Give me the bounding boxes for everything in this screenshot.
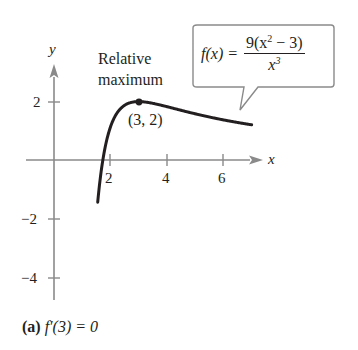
formula-denominator: x3 bbox=[268, 54, 280, 74]
numerator-base: 9(x bbox=[246, 34, 267, 51]
x-tick-label-6: 6 bbox=[218, 171, 226, 186]
y-axis-arrow-icon bbox=[50, 64, 59, 78]
point-coordinate-label: (3, 2) bbox=[128, 112, 163, 128]
x-tick-label-4: 4 bbox=[162, 171, 170, 186]
caption-text: f′(3) = 0 bbox=[45, 318, 98, 335]
figure-caption: (a) f′(3) = 0 bbox=[22, 318, 98, 336]
relative-maximum-label-line2: maximum bbox=[98, 72, 163, 88]
caption-part-label: (a) bbox=[22, 318, 41, 335]
denominator-exponent: 3 bbox=[275, 55, 280, 66]
relative-maximum-point bbox=[136, 99, 143, 106]
x-tick-label-2: 2 bbox=[105, 171, 113, 186]
x-axis-arrow-icon bbox=[249, 156, 263, 165]
formula-lhs: f(x) = bbox=[201, 45, 238, 63]
formula-fraction: 9(x2 − 3) x3 bbox=[244, 33, 305, 75]
y-tick-label-2: 2 bbox=[33, 95, 41, 110]
y-axis-label: y bbox=[49, 42, 56, 57]
x-axis bbox=[26, 154, 263, 166]
function-formula: f(x) = 9(x2 − 3) x3 bbox=[201, 33, 305, 75]
formula-numerator: 9(x2 − 3) bbox=[244, 33, 305, 54]
y-tick-label-neg2: −2 bbox=[21, 212, 37, 227]
relative-maximum-label-line1: Relative bbox=[98, 51, 151, 67]
x-axis-label: x bbox=[268, 152, 275, 167]
y-axis bbox=[48, 64, 60, 300]
y-tick-label-neg4: −4 bbox=[21, 271, 37, 286]
numerator-suffix: − 3) bbox=[272, 34, 302, 51]
function-curve bbox=[98, 102, 252, 203]
